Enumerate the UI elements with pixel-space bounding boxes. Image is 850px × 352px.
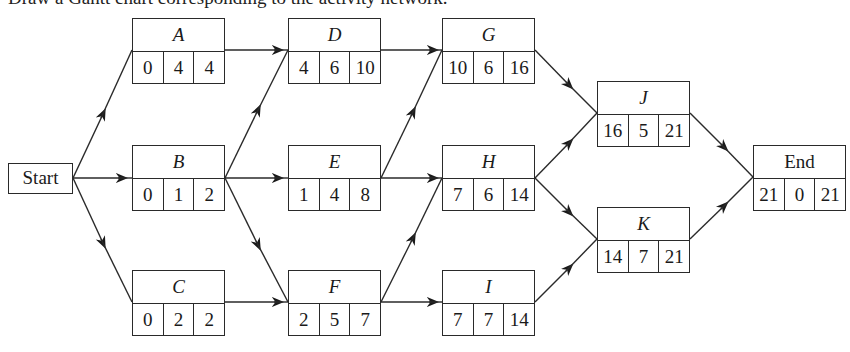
node-j-earliest-start: 16 [598,115,629,146]
node-d: D 4 6 10 [288,18,381,84]
node-g: G 10 6 16 [442,18,535,84]
node-i-latest-finish: 14 [504,304,534,335]
node-e-latest-finish: 8 [350,179,380,210]
node-b-duration: 1 [164,179,195,210]
edge-j-end [690,113,724,147]
end-node: End 21 0 21 [753,145,846,211]
node-k-duration: 7 [629,241,660,272]
node-c-latest-finish: 2 [194,304,224,335]
node-a-duration: 4 [164,52,195,83]
node-a-label: A [133,19,224,52]
node-i: I 7 7 14 [442,270,535,336]
edge-start-a [73,114,103,178]
node-c-label: C [133,271,224,304]
node-g-latest-finish: 16 [504,52,534,83]
node-j-duration: 5 [629,115,660,146]
node-a: A 0 4 4 [132,18,225,84]
node-i-duration: 7 [474,304,505,335]
node-c-earliest-start: 0 [133,304,164,335]
node-e: E 1 4 8 [288,145,381,211]
node-g-duration: 6 [474,52,505,83]
start-node: Start [8,163,73,194]
node-d-latest-finish: 10 [350,52,380,83]
edge-k-end [690,206,724,239]
edge-b-f [225,178,258,245]
node-d-duration: 6 [320,52,351,83]
end-node-duration: 0 [785,179,816,210]
node-h: H 7 6 14 [442,145,535,211]
node-h-earliest-start: 7 [443,179,474,210]
end-node-latest-finish: 21 [815,179,845,210]
node-f-earliest-start: 2 [289,304,320,335]
node-h-latest-finish: 14 [504,179,534,210]
node-f-label: F [289,271,380,304]
node-b: B 0 1 2 [132,145,225,211]
node-i-earliest-start: 7 [443,304,474,335]
node-a-latest-finish: 4 [194,52,224,83]
end-node-earliest-start: 21 [754,179,785,210]
edge-h-k [535,178,569,212]
edge-h-j [535,143,569,178]
node-g-label: G [443,19,534,52]
node-j-label: J [598,82,689,115]
edge-g-j [535,50,569,85]
edge-e-g [381,112,413,178]
node-h-label: H [443,146,534,179]
node-d-earliest-start: 4 [289,52,320,83]
edge-start-c [73,178,103,243]
node-k-label: K [598,208,689,241]
edge-f-h [381,238,413,302]
node-e-duration: 4 [320,179,351,210]
node-c: C 0 2 2 [132,270,225,336]
node-k-earliest-start: 14 [598,241,629,272]
node-b-label: B [133,146,224,179]
node-k: K 14 7 21 [597,207,690,273]
node-g-earliest-start: 10 [443,52,474,83]
node-e-earliest-start: 1 [289,179,320,210]
node-b-earliest-start: 0 [133,179,164,210]
node-f-duration: 5 [320,304,351,335]
node-h-duration: 6 [474,179,505,210]
node-k-latest-finish: 21 [659,241,689,272]
node-a-earliest-start: 0 [133,52,164,83]
edge-b-d [225,110,258,178]
node-j: J 16 5 21 [597,81,690,147]
node-f: F 2 5 7 [288,270,381,336]
node-d-label: D [289,19,380,52]
end-node-label: End [754,146,845,179]
node-c-duration: 2 [164,304,195,335]
node-j-latest-finish: 21 [659,115,689,146]
node-b-latest-finish: 2 [194,179,224,210]
node-f-latest-finish: 7 [350,304,380,335]
edge-layer [0,0,850,352]
edge-i-k [535,268,569,302]
node-e-label: E [289,146,380,179]
node-i-label: I [443,271,534,304]
